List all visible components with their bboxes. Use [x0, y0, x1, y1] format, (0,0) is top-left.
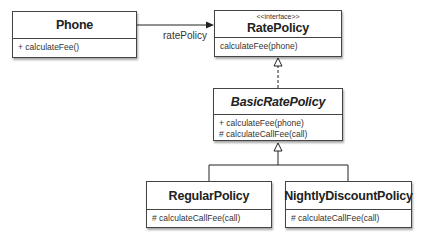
- realization-triangle-icon: [274, 58, 282, 66]
- class-rate-policy: <<interface>> RatePolicy calculateFee(ph…: [214, 10, 342, 57]
- class-header: RegularPolicy: [147, 182, 271, 210]
- stereotype-label: <<interface>>: [256, 13, 299, 21]
- association-arrowhead-icon: [206, 22, 214, 29]
- class-name: RatePolicy: [247, 21, 309, 35]
- class-nightly-discount-policy: NightlyDiscountPolicy # calculateCallFee…: [285, 181, 412, 228]
- class-header: BasicRatePolicy: [214, 89, 342, 115]
- operation: calculateFee(phone): [220, 41, 336, 52]
- class-name: RegularPolicy: [169, 189, 250, 203]
- class-operations: calculateFee(phone): [215, 38, 341, 55]
- class-name: BasicRatePolicy: [231, 95, 325, 109]
- generalization-branch-line: [209, 165, 348, 181]
- class-name: NightlyDiscountPolicy: [284, 189, 412, 203]
- operation: # calculateCallFee(call): [219, 129, 337, 140]
- class-header: <<interface>> RatePolicy: [215, 11, 341, 38]
- operation: # calculateCallFee(call): [152, 213, 266, 224]
- class-phone: Phone + calculateFee(): [12, 11, 137, 58]
- class-header: Phone: [13, 12, 136, 39]
- class-operations: + calculateFee(phone) # calculateCallFee…: [214, 115, 342, 142]
- generalization-triangle-icon: [274, 143, 282, 151]
- operation: + calculateFee(): [18, 42, 131, 53]
- class-operations: # calculateCallFee(call): [286, 210, 411, 227]
- operation: # calculateCallFee(call): [291, 213, 406, 224]
- association-label: ratePolicy: [163, 30, 207, 41]
- operation: + calculateFee(phone): [219, 118, 337, 129]
- class-operations: + calculateFee(): [13, 39, 136, 56]
- class-operations: # calculateCallFee(call): [147, 210, 271, 227]
- class-basic-rate-policy: BasicRatePolicy + calculateFee(phone) # …: [213, 88, 343, 141]
- class-regular-policy: RegularPolicy # calculateCallFee(call): [146, 181, 272, 228]
- class-name: Phone: [56, 18, 93, 32]
- class-header: NightlyDiscountPolicy: [286, 182, 411, 210]
